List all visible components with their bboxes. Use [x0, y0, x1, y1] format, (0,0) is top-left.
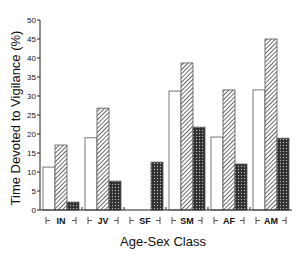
bar-af-dark-dotted — [235, 164, 247, 210]
x-category-label: JV — [97, 216, 108, 226]
bar-af-open — [211, 137, 223, 210]
bar-in-diagonal-hatched — [55, 145, 67, 210]
bar-am-open — [253, 90, 265, 210]
y-tick-label: 35 — [27, 73, 36, 82]
x-category-label: AF — [223, 216, 235, 226]
bar-sm-diagonal-hatched — [181, 63, 193, 210]
x-category-label: SM — [180, 216, 194, 226]
bar-sm-dark-dotted — [193, 127, 205, 210]
y-tick-label: 15 — [27, 149, 36, 158]
bar-sf-dark-dotted — [151, 162, 163, 210]
y-tick-label: 45 — [27, 35, 36, 44]
x-axis-label: Age-Sex Class — [120, 234, 206, 249]
bar-sm-open — [169, 91, 181, 210]
x-category-label: IN — [57, 216, 66, 226]
bar-am-dark-dotted — [277, 138, 289, 210]
bar-af-diagonal-hatched — [223, 90, 235, 210]
x-category-label: AM — [264, 216, 278, 226]
y-tick-label: 0 — [32, 206, 37, 215]
bar-am-diagonal-hatched — [265, 39, 277, 210]
y-tick-label: 50 — [27, 16, 36, 25]
y-tick-label: 5 — [32, 187, 37, 196]
vigilance-bar-chart: 05101520253035404550 INJVSFSMAFAM Time D… — [0, 0, 300, 262]
y-ticks: 05101520253035404550 — [27, 16, 40, 215]
bars-layer — [43, 39, 289, 210]
y-tick-label: 25 — [27, 111, 36, 120]
y-tick-label: 30 — [27, 92, 36, 101]
y-tick-label: 40 — [27, 54, 36, 63]
bar-in-dark-dotted — [67, 202, 79, 210]
bar-in-open — [43, 167, 55, 210]
y-tick-label: 10 — [27, 168, 36, 177]
y-tick-label: 20 — [27, 130, 36, 139]
bar-jv-dark-dotted — [109, 181, 121, 210]
y-axis-label: Time Devoted to Vigilance (%) — [8, 31, 23, 206]
x-categories: INJVSFSMAFAM — [46, 207, 286, 226]
bar-jv-diagonal-hatched — [97, 108, 109, 210]
x-category-label: SF — [139, 216, 151, 226]
bar-jv-open — [85, 138, 97, 210]
